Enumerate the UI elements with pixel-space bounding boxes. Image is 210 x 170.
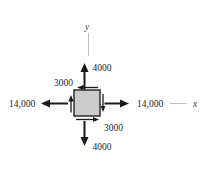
- sigma-x-left-value: 14,000: [9, 99, 35, 109]
- shear-top-value: 3000: [54, 78, 73, 88]
- shear-bottom-value: 3000: [104, 123, 123, 133]
- sigma-y-bottom-value: 4000: [93, 142, 112, 152]
- stress-diagram-canvas: y x 4000 3000 14,000 14,000 3000 4000: [0, 0, 210, 170]
- sigma-x-right-value: 14,000: [137, 99, 163, 109]
- stress-element-diagram: y x 4000 3000 14,000 14,000 3000 4000: [0, 0, 210, 170]
- stress-element-square: [74, 90, 100, 116]
- x-axis-label: x: [192, 99, 198, 109]
- sigma-y-top-value: 4000: [93, 63, 112, 73]
- y-axis-label: y: [84, 22, 90, 32]
